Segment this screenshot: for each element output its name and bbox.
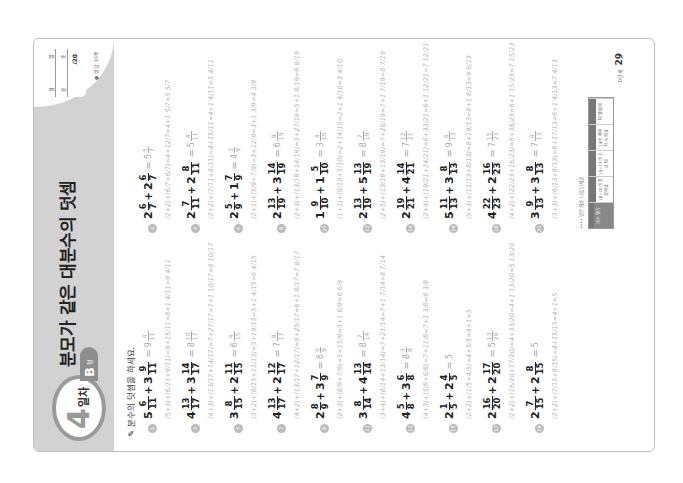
numerator: 6 [139, 173, 148, 181]
answer-fraction: 819 [271, 131, 284, 141]
problem-number: 17 [492, 424, 501, 433]
answer-fraction: 413 [529, 131, 542, 141]
equation: 2 8 9 + 3 7 9 =669 [311, 347, 329, 419]
numerator: 19 [397, 197, 406, 211]
denominator: 11 [191, 131, 198, 141]
plus-sign: + [358, 186, 369, 194]
handwritten-answer[interactable]: =7817 [271, 331, 284, 359]
denominator: 23 [492, 162, 502, 176]
answer-fraction: 613 [443, 131, 456, 141]
handwritten-answer[interactable]: =9411 [142, 331, 155, 359]
denominator: 17 [191, 362, 201, 376]
denominator: 15 [234, 331, 241, 341]
numerator: 6 [397, 373, 406, 381]
handwritten-answer[interactable]: =5 [530, 342, 541, 359]
numerator: 1 [440, 402, 449, 410]
answer-fraction: 38 [400, 347, 413, 353]
mixed-number: 2 6 7 [139, 202, 157, 219]
handwritten-answer[interactable]: =9613 [443, 131, 456, 159]
answer-whole: 9 [445, 142, 454, 147]
numerator: 13 [354, 362, 363, 376]
fraction: 8 13 [440, 162, 458, 176]
handwritten-answer[interactable]: =5411 [185, 131, 198, 159]
mixed-number: 5 6 11 [139, 397, 157, 420]
handwritten-answer[interactable]: =81017 [185, 331, 198, 359]
handwritten-work: (3+3)+(9/13+8/13)=6+17/13=6+1 4/13=7 4/1… [551, 59, 559, 219]
fraction: 6 11 [139, 397, 157, 411]
mixed-number: 4 13 17 [268, 397, 286, 420]
whole-part: 1 [228, 182, 241, 190]
fraction: 8 9 [311, 402, 329, 410]
instruction-text: 분수의 덧셈을 하세요. [126, 347, 136, 427]
answer-fraction: 1523 [486, 131, 499, 141]
denominator: 15 [234, 397, 244, 411]
handwritten-answer[interactable]: =51320 [486, 331, 499, 359]
whole-part: 2 [400, 211, 413, 219]
numerator: 9 [526, 199, 535, 207]
denominator: 21 [406, 162, 416, 176]
numerator: 9 [139, 365, 148, 373]
fraction: 14 21 [397, 162, 415, 176]
answer-whole: 8 [402, 354, 411, 359]
denominator: 19 [277, 162, 287, 176]
fraction: 13 19 [354, 197, 372, 211]
handwritten-answer[interactable]: =71221 [400, 131, 413, 159]
handwritten-answer[interactable]: =838 [400, 347, 413, 371]
numerator: 8 [526, 365, 535, 373]
equation: 2 7 11 + 2 8 11 =5411 [182, 131, 200, 219]
answer-whole: 7 [402, 142, 411, 147]
answer-fraction: 39 [228, 147, 241, 153]
answer-whole: 9 [144, 342, 153, 347]
handwritten-work: (3+2)+(8/15+11/15)=5+19/15=5+1 4/15=6 4/… [250, 255, 258, 419]
whole-part: 2 [357, 211, 370, 219]
handwritten-answer[interactable]: =439 [228, 147, 241, 171]
mixed-number: 3 9 13 [526, 197, 544, 220]
denominator: 23 [492, 131, 499, 141]
denominator: 15 [535, 362, 545, 376]
problem-number: 16 [449, 224, 458, 233]
handwritten-answer[interactable]: =6819 [271, 131, 284, 159]
whole-part: 2 [529, 376, 542, 384]
handwritten-answer[interactable]: =6415 [228, 331, 241, 359]
whole-part: 3 [185, 376, 198, 384]
fraction: 17 20 [483, 362, 501, 376]
numerator: 13 [354, 197, 363, 211]
denominator: 17 [191, 331, 198, 341]
numerator: 5 [311, 165, 320, 173]
handwritten-answer[interactable]: =8714 [357, 331, 370, 359]
problem-number: 7 [277, 424, 286, 433]
day-label: 일차 [75, 387, 91, 407]
denominator: 11 [148, 362, 158, 376]
whole-part: 2 [486, 376, 499, 384]
equation: 2 7 15 + 2 8 15 =5 [526, 342, 544, 419]
handwritten-answer[interactable]: =557 [142, 147, 155, 171]
handwritten-work: (2+3)+(13/19+14/19)=5+27/19=5+1 8/19=6 8… [293, 51, 301, 219]
handwritten-answer[interactable]: =7413 [529, 131, 542, 159]
handwritten-answer[interactable]: =669 [314, 347, 327, 371]
problem-number: 10 [320, 224, 329, 233]
numerator: 7 [182, 199, 191, 207]
type-letter: B [82, 367, 97, 377]
answer-whole: 6 [230, 342, 239, 347]
mixed-number: 1 5 10 [311, 162, 329, 185]
denominator: 11 [148, 397, 158, 411]
equation: 5 6 11 + 3 9 11 =9411 [139, 331, 157, 419]
fraction: 5 8 [397, 402, 415, 410]
mixed-number: 2 1 5 [440, 402, 458, 419]
equation: 2 6 7 + 2 6 7 =557 [139, 147, 157, 219]
handwritten-answer[interactable]: =5 [444, 354, 455, 371]
score-total: /20 [68, 49, 78, 97]
problem-item: 16 5 11 13 + 3 8 13 =9613 (5+3)+(11/13+8… [440, 43, 483, 233]
handwritten-work: (4+2)+(22/23+16/23)=6+38/23=6+1 15/23=7 … [508, 43, 516, 219]
equation: 5 11 13 + 3 8 13 =9613 [440, 131, 458, 219]
fraction: 8 15 [526, 362, 544, 376]
denominator: 13 [449, 197, 459, 211]
handwritten-answer[interactable]: =8719 [357, 131, 370, 159]
numerator: 13 [182, 397, 191, 411]
handwritten-answer[interactable]: =71523 [486, 131, 499, 159]
whole-part: 5 [357, 176, 370, 184]
equation: 2 13 19 + 5 13 19 =8719 [354, 131, 372, 219]
plus-sign: + [272, 186, 283, 194]
mixed-number: 2 19 21 [397, 197, 415, 220]
handwritten-answer[interactable]: =3410 [314, 131, 327, 159]
